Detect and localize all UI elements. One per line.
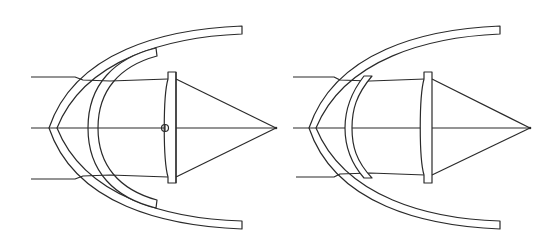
left-converge-lower xyxy=(176,128,276,177)
right-meniscus-corrector xyxy=(345,76,372,178)
left-focal-point xyxy=(275,127,278,130)
right-converge-upper xyxy=(432,79,530,128)
left-lower-ray xyxy=(31,175,168,179)
left-focusing-lens xyxy=(164,72,176,183)
right-upper-ray xyxy=(293,77,425,81)
optical-diagram xyxy=(0,0,550,249)
left-upper-ray xyxy=(31,77,168,81)
right-figure xyxy=(293,26,531,229)
left-converge-upper xyxy=(176,79,276,128)
right-focal-point xyxy=(529,127,532,130)
right-converge-lower xyxy=(432,128,530,175)
right-focusing-lens xyxy=(420,72,432,183)
left-figure xyxy=(31,26,277,229)
